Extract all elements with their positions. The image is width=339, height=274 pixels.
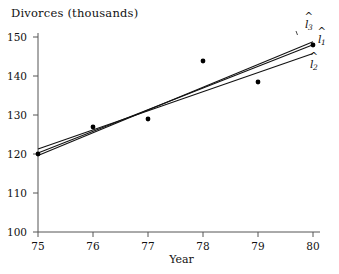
y-tick-label-100: 100 [0,226,27,238]
data-point [146,117,151,122]
line-label-l1-base: l [318,33,322,46]
x-tick-label-79: 79 [245,240,271,252]
y-axis-ticks [33,37,38,232]
line-label-l1: l1 [318,33,326,47]
line-label-l2-base: l [310,58,314,71]
chart-figure: Divorces (thousands) [0,0,339,274]
legend-pointer-mark [296,31,298,35]
x-tick-label-77: 77 [135,240,161,252]
data-point [91,125,96,130]
x-tick-label-78: 78 [190,240,216,252]
x-axis-ticks [38,232,313,237]
x-tick-label-80: 80 [300,240,326,252]
y-tick-label-120: 120 [0,148,27,160]
y-tick-label-150: 150 [0,31,27,43]
y-tick-label-140: 140 [0,70,27,82]
fitted-line-l1 [38,45,313,153]
y-tick-label-130: 130 [0,109,27,121]
x-tick-label-76: 76 [80,240,106,252]
line-label-l3-base: l [305,18,309,31]
chart-title: Divorces (thousands) [11,6,138,20]
y-tick-label-110: 110 [0,187,27,199]
data-point [311,43,316,48]
data-point [36,152,41,157]
data-point [201,59,206,64]
x-axis-title: Year [0,253,339,266]
chart-plot-area [0,0,339,274]
x-tick-label-75: 75 [25,240,51,252]
data-point [256,80,261,85]
line-label-l2: l2 [310,58,318,72]
line-label-l3: l3 [305,18,313,32]
fitted-line-l2 [38,53,313,149]
